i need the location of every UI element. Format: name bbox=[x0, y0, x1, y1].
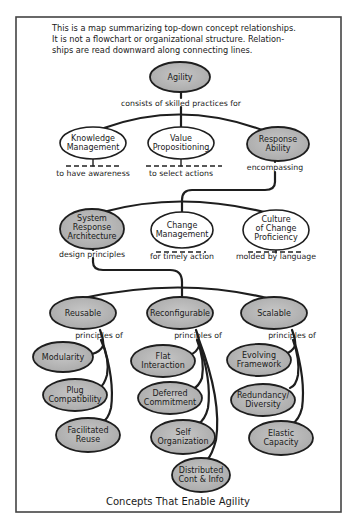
node-deferred-commitment[interactable]: Deferred Commitment bbox=[138, 382, 202, 414]
svg-text:Capacity: Capacity bbox=[264, 438, 299, 447]
diagram-caption: Concepts That Enable Agility bbox=[106, 496, 250, 507]
svg-text:Cont & Info: Cont & Info bbox=[178, 475, 223, 484]
intro-line-2: It is not a flowchart or organizational … bbox=[52, 34, 284, 44]
svg-text:Value: Value bbox=[170, 134, 192, 143]
svg-text:Organization: Organization bbox=[157, 437, 208, 446]
node-scalable[interactable]: Scalable bbox=[241, 297, 307, 329]
node-distributed-cont-info[interactable]: Distributed Cont & Info bbox=[172, 458, 230, 492]
node-reusable[interactable]: Reusable bbox=[50, 297, 116, 329]
node-reconfigurable[interactable]: Reconfigurable bbox=[147, 297, 213, 329]
node-flat-interaction[interactable]: Flat Interaction bbox=[131, 345, 195, 377]
svg-text:Propositioning: Propositioning bbox=[153, 143, 210, 152]
svg-text:Framework: Framework bbox=[237, 360, 282, 369]
node-plug-compatibility[interactable]: Plug Compatibility bbox=[43, 379, 107, 411]
svg-text:Self: Self bbox=[175, 428, 190, 437]
svg-text:Management: Management bbox=[67, 143, 120, 152]
concept-map: This is a map summarizing top-down conce… bbox=[0, 0, 353, 530]
annotation-encompassing: encompassing bbox=[247, 163, 303, 172]
node-value-propositioning[interactable]: Value Propositioning bbox=[148, 127, 214, 159]
svg-text:Flat: Flat bbox=[156, 352, 171, 361]
link-label-principles-of-reusable: principles of bbox=[75, 331, 123, 340]
link-label-principles-of-reconfigurable: principles of bbox=[174, 331, 222, 340]
svg-text:Ability: Ability bbox=[265, 144, 290, 153]
link-label-consists-of: consists of skilled practices for bbox=[121, 99, 242, 108]
svg-text:Plug: Plug bbox=[66, 386, 83, 395]
node-culture-of-change-proficiency[interactable]: Culture of Change Proficiency bbox=[243, 210, 309, 250]
node-agility[interactable]: Agility bbox=[150, 62, 210, 92]
svg-text:Interaction: Interaction bbox=[141, 361, 184, 370]
link-label-principles-of-scalable: principles of bbox=[268, 331, 316, 340]
node-system-response-architecture[interactable]: System Response Architecture bbox=[60, 209, 124, 249]
intro-note: This is a map summarizing top-down conce… bbox=[51, 23, 296, 55]
svg-text:Deferred: Deferred bbox=[152, 389, 187, 398]
intro-line-1: This is a map summarizing top-down conce… bbox=[51, 23, 296, 33]
annotation-design-principles: design principles bbox=[59, 250, 125, 259]
svg-text:Knowledge: Knowledge bbox=[71, 134, 115, 143]
svg-text:Facilitated: Facilitated bbox=[67, 426, 108, 435]
svg-text:Change: Change bbox=[167, 221, 198, 230]
node-facilitated-reuse[interactable]: Facilitated Reuse bbox=[56, 418, 120, 452]
svg-text:Proficiency: Proficiency bbox=[254, 233, 298, 242]
svg-text:Diversity: Diversity bbox=[245, 400, 281, 409]
node-self-organization[interactable]: Self Organization bbox=[151, 420, 215, 454]
svg-text:Evolving: Evolving bbox=[242, 351, 276, 360]
svg-text:Redundancy/: Redundancy/ bbox=[237, 391, 290, 400]
svg-text:Commitment: Commitment bbox=[144, 398, 196, 407]
node-response-ability[interactable]: Response Ability bbox=[247, 127, 309, 161]
svg-text:Compatibility: Compatibility bbox=[48, 395, 101, 404]
node-change-management[interactable]: Change Management bbox=[151, 212, 213, 248]
svg-text:Culture: Culture bbox=[261, 215, 290, 224]
annotation-molded-by-language: molded by language bbox=[236, 252, 316, 261]
annotation-to-select-actions: to select actions bbox=[149, 169, 213, 178]
svg-text:Reconfigurable: Reconfigurable bbox=[150, 309, 210, 318]
svg-text:of Change: of Change bbox=[256, 224, 297, 233]
svg-text:Response: Response bbox=[259, 135, 298, 144]
node-elastic-capacity[interactable]: Elastic Capacity bbox=[249, 421, 313, 455]
svg-text:Scalable: Scalable bbox=[257, 309, 291, 318]
svg-text:Agility: Agility bbox=[167, 73, 192, 82]
svg-text:Reusable: Reusable bbox=[65, 309, 102, 318]
svg-text:Elastic: Elastic bbox=[268, 429, 294, 438]
node-knowledge-management[interactable]: Knowledge Management bbox=[60, 127, 126, 159]
node-evolving-framework[interactable]: Evolving Framework bbox=[227, 344, 291, 376]
svg-text:Response: Response bbox=[73, 223, 112, 232]
svg-text:Architecture: Architecture bbox=[68, 232, 117, 241]
svg-text:Distributed: Distributed bbox=[179, 466, 223, 475]
annotation-for-timely-action: for timely action bbox=[150, 252, 214, 261]
svg-text:Management: Management bbox=[156, 230, 209, 239]
svg-text:Modularity: Modularity bbox=[42, 353, 85, 362]
intro-line-3: ships are read downward along connecting… bbox=[52, 45, 252, 55]
svg-text:System: System bbox=[77, 214, 107, 223]
svg-text:Reuse: Reuse bbox=[76, 435, 100, 444]
node-modularity[interactable]: Modularity bbox=[33, 342, 93, 372]
node-redundancy-diversity[interactable]: Redundancy/ Diversity bbox=[231, 384, 295, 416]
annotation-to-have-awareness: to have awareness bbox=[56, 169, 130, 178]
